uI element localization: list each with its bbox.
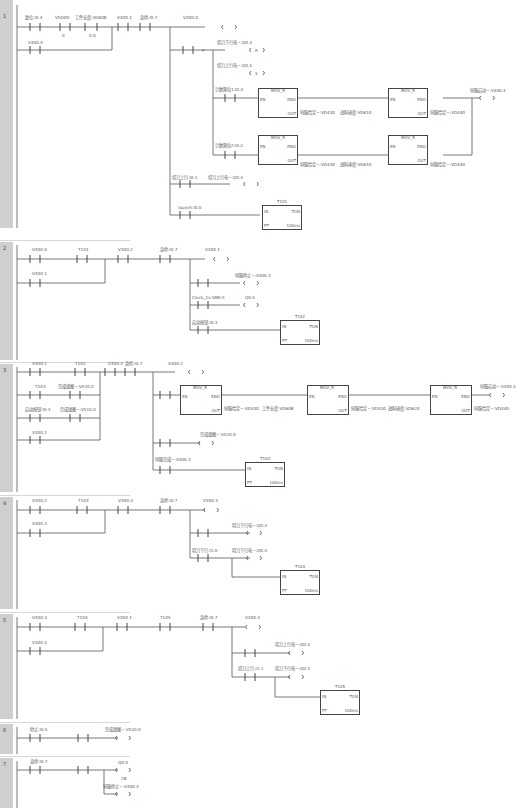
contact-label: 计数限位1:I0.3 xyxy=(215,87,243,92)
contact-label: T103 xyxy=(78,498,89,503)
coil-label: 切刀下行电~:Q0.3 xyxy=(275,666,310,671)
block-io-label: 进料速度:VD610 xyxy=(340,110,372,115)
contact-label: T104 xyxy=(77,615,88,620)
coil-label: Q0.0 xyxy=(118,760,128,765)
coil-label: V300.4 xyxy=(245,615,260,620)
mov-r-block: MOV_R EN ENO OUT xyxy=(258,135,298,165)
contact-label: V300.0 xyxy=(28,40,43,45)
coil-label: 伺服停止~:V400.3 xyxy=(103,784,139,789)
contact-label: V5D00 xyxy=(55,15,69,20)
mov-r-block: MOV_R EN ENO OUT xyxy=(180,385,222,415)
block-io-label: 伺服给定~:VD430 xyxy=(300,162,335,167)
contact-label: V300.3 xyxy=(32,521,47,526)
coil-label: 伺服停止~:V400.3 xyxy=(235,273,271,278)
contact-label: V300.2 xyxy=(32,498,47,503)
coil-label: 完成填图~:V510.0 xyxy=(105,727,141,732)
contact-label: T105 xyxy=(160,615,171,620)
contact-label: V300.2 xyxy=(118,247,133,252)
contact-label: 急停:I0.7 xyxy=(140,15,157,20)
contact-label: V300.1 xyxy=(117,615,132,620)
compare-value: 0.0 xyxy=(89,33,96,38)
contact-label: 急停:I0.7 xyxy=(125,361,142,366)
timer-block: T102 IN TON PT 100ms xyxy=(280,320,320,345)
contact-label: 切刀上行:I0.1 xyxy=(172,175,197,180)
contact-label: 急停:I0.7 xyxy=(200,615,217,620)
timer-block: T105 IN TON PT 100ms xyxy=(320,690,360,715)
mov-r-block: MOV_R EN ENO OUT xyxy=(430,385,472,415)
timer-block: T101 IN TON PT 100ms xyxy=(262,205,302,230)
contact-label: 工件长度:VD608 xyxy=(75,15,107,20)
contact-label: T103 xyxy=(35,384,46,389)
contact-label: 切刀上行:I1.1 xyxy=(238,666,263,671)
contact-label: 停止:I0.5 xyxy=(30,727,47,732)
mov-r-block: MOV_R EN ENO OUT xyxy=(258,88,298,118)
coil-label: V300.1 xyxy=(205,247,220,252)
coil-type: R xyxy=(255,48,258,53)
block-io-label: 伺服给定~:VD430 xyxy=(300,110,335,115)
mov-r-block: MOV_R EN ENO OUT xyxy=(388,135,428,165)
positive-edge: P xyxy=(202,48,205,53)
contact-label: 急停:I0.7 xyxy=(160,247,177,252)
contact-label: 切刀下行:I1.0 xyxy=(192,548,217,553)
block-io-label: 进料速度:VD620 xyxy=(388,406,420,411)
block-io-label: 伺服给定~:VD440 xyxy=(430,162,465,167)
contact-label: 启动按钮:I0.3 xyxy=(192,320,217,325)
coil-label: 伺服启动~:V400.4 xyxy=(480,384,516,389)
contact-label: T101 xyxy=(78,247,89,252)
coil-label: V300.0 xyxy=(183,15,198,20)
coil-label: 切刀下行电~:Q0.3 xyxy=(232,523,267,528)
contact-label: 急停:I0.7 xyxy=(30,759,47,764)
contact-label: 急停:I0.7 xyxy=(160,498,177,503)
contact-label: V300.1 xyxy=(32,271,47,276)
block-io-label: 伺服给定~:VD440 xyxy=(474,406,509,411)
coil-label: V300.2 xyxy=(168,361,183,366)
mov-r-block: MOV_R EN ENO OUT xyxy=(388,88,428,118)
contact-label: launch:I0.0 xyxy=(178,205,201,210)
contact-label: V300.4 xyxy=(32,640,47,645)
compare-value: 0 xyxy=(62,33,65,38)
contact-label: 启动按钮:I0.3 xyxy=(25,407,50,412)
contact-label: Clock_1s:SM0.5 xyxy=(192,295,225,300)
coil-label: 切刀上行电~:Q0.4 xyxy=(275,642,310,647)
coil-label: 切刀下行电~:Q0.3 xyxy=(232,548,267,553)
timer-block: T103 IN TON PT 100ms xyxy=(245,462,285,487)
contact-label: 伺服完成~:V400.3 xyxy=(155,457,191,462)
coil-type: S xyxy=(255,71,258,76)
coil-label: 切刀上行电~:Q0.4 xyxy=(217,63,252,68)
contact-label: 计数限位2:I0.2 xyxy=(215,143,243,148)
contact-label: V300.4 xyxy=(118,498,133,503)
contact-label: V300.3 xyxy=(108,361,123,366)
coil-label: 完成填图~:V510.0 xyxy=(200,432,236,437)
block-io-label: 伺服给定~:VD440 xyxy=(430,110,465,115)
block-io-label: 进料速度:VD610 xyxy=(340,162,372,167)
contact-label: V300.1 xyxy=(32,361,47,366)
contact-label: 完成填图~:V510.0 xyxy=(60,407,96,412)
contact-label: V300.1 xyxy=(117,15,132,20)
block-io-label: 工件长度:VD608 xyxy=(262,406,294,411)
contact-label: T102 xyxy=(75,361,86,366)
coil-label: 切刀下行电~:Q0.3 xyxy=(217,40,252,45)
block-io-label: 伺服给定~:VD430 xyxy=(351,406,386,411)
contact-label: 完成填图~:V510.0 xyxy=(58,384,94,389)
contact-label: V300.0 xyxy=(32,247,47,252)
contact-label: V300.2 xyxy=(32,430,47,435)
block-io-label: 伺服给定~:VD430 xyxy=(224,406,259,411)
coil-label: Q0.5 xyxy=(245,295,255,300)
coil-label: V300.3 xyxy=(203,498,218,503)
mov-r-block: MOV_R EN ENO OUT xyxy=(307,385,349,415)
coil-label: 切刀上行电~:Q0.4 xyxy=(208,175,243,180)
coil-label: 伺服启动~:V400.4 xyxy=(470,88,506,93)
coil-count: 28 xyxy=(121,776,126,781)
timer-block: T104 IN TON PT 100ms xyxy=(280,570,320,595)
contact-label: 复位:I0.4 xyxy=(25,15,42,20)
contact-label: V300.3 xyxy=(32,615,47,620)
